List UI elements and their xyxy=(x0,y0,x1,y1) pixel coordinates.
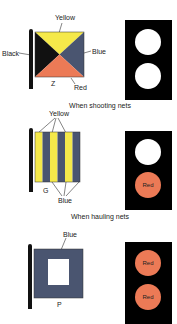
flag-letter: P xyxy=(57,301,62,308)
label-blue: Blue xyxy=(63,231,77,238)
light-red-icon: Red xyxy=(135,250,161,276)
light-red-icon: Red xyxy=(135,284,161,310)
light-panel: Red Red xyxy=(125,242,172,324)
